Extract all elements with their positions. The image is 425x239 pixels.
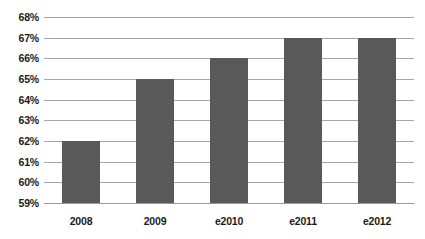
bar xyxy=(284,38,322,203)
y-axis-tick-label: 65% xyxy=(19,73,39,85)
y-axis-tick-label: 63% xyxy=(19,114,39,126)
y-axis-tick-label: 59% xyxy=(19,197,39,209)
y-axis-tick-label: 61% xyxy=(19,156,39,168)
y-axis-tick-label: 66% xyxy=(19,52,39,64)
bar xyxy=(210,58,248,203)
bar-series xyxy=(44,0,414,239)
y-axis: 68%67%66%65%64%63%62%61%60%59% xyxy=(0,0,44,239)
y-axis-tick-label: 60% xyxy=(19,176,39,188)
y-axis-tick-label: 62% xyxy=(19,135,39,147)
bar xyxy=(136,79,174,203)
plot-area xyxy=(44,0,414,239)
y-axis-tick-label: 64% xyxy=(19,94,39,106)
bar-chart: 68%67%66%65%64%63%62%61%60%59% 20082009e… xyxy=(0,0,425,239)
y-axis-tick-label: 68% xyxy=(19,11,39,23)
bar xyxy=(358,38,396,203)
y-axis-tick-label: 67% xyxy=(19,32,39,44)
bar xyxy=(62,141,100,203)
